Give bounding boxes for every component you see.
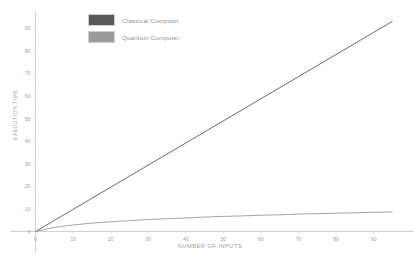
series-line-quantum xyxy=(36,212,393,232)
plot-area xyxy=(0,0,420,264)
x-tick-label: 30 xyxy=(141,236,155,242)
y-tick-label: 60 xyxy=(17,93,31,99)
x-tick-label: 10 xyxy=(66,236,80,242)
y-tick-label: 10 xyxy=(17,206,31,212)
x-tick-label: 60 xyxy=(254,236,268,242)
legend-swatch-classical xyxy=(88,14,115,26)
y-tick-label: 90 xyxy=(17,25,31,31)
y-tick-label: 40 xyxy=(17,138,31,144)
x-tick-label: 20 xyxy=(104,236,118,242)
y-tick-label: 20 xyxy=(17,183,31,189)
y-tick-label: 0 xyxy=(17,229,31,235)
y-tick-label: 30 xyxy=(17,161,31,167)
series-line-classical xyxy=(36,21,393,231)
x-tick-label: 80 xyxy=(329,236,343,242)
legend-label-quantum: Quantum Computer xyxy=(122,34,179,41)
x-axis-title: NUMBER OF INPUTS xyxy=(0,243,420,249)
x-tick-label: 90 xyxy=(367,236,381,242)
y-tick-label: 80 xyxy=(17,48,31,54)
legend-swatch-quantum xyxy=(88,31,115,43)
y-tick-label: 50 xyxy=(17,116,31,122)
chart-legend: Classical Computer Quantum Computer xyxy=(88,14,179,43)
legend-label-classical: Classical Computer xyxy=(122,17,179,24)
legend-item-quantum[interactable]: Quantum Computer xyxy=(88,31,179,43)
legend-item-classical[interactable]: Classical Computer xyxy=(88,14,179,26)
x-tick-label: 40 xyxy=(179,236,193,242)
x-tick-label: 70 xyxy=(292,236,306,242)
x-tick-label: 50 xyxy=(216,236,230,242)
y-tick-label: 70 xyxy=(17,70,31,76)
chart-container: 0102030405060708090 0102030405060708090 … xyxy=(0,0,420,264)
x-tick-label: 0 xyxy=(29,236,43,242)
y-axis-title: EXECUTION TIME xyxy=(12,70,18,160)
